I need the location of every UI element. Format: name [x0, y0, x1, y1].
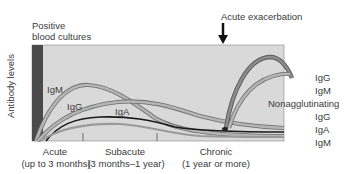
right-label-igm-bottom: IgM — [315, 137, 331, 149]
phase-chronic-range: (1 year or more) — [170, 158, 262, 170]
right-label-nonagglutinating: Nonagglutinating — [268, 98, 339, 110]
down-arrow-icon — [218, 23, 228, 44]
exacerbation-start-marker — [222, 127, 228, 131]
right-label-igm-top: IgM — [315, 85, 331, 97]
inline-label-igg: IgG — [67, 101, 82, 113]
inline-label-iga: IgA — [115, 106, 129, 118]
phase-acute-label: Acute — [20, 146, 90, 158]
phase-subacute-label: Subacute — [85, 146, 165, 158]
y-axis-label: Antibody levels — [5, 54, 16, 118]
phase-subacute-range: (3 months–1 year) — [78, 158, 174, 170]
phase-chronic-label: Chronic — [176, 146, 256, 158]
inline-label-igm: IgM — [47, 84, 63, 96]
right-label-igg-bottom: IgG — [315, 111, 330, 123]
right-label-igg-top: IgG — [315, 72, 330, 84]
right-label-iga-bottom: IgA — [315, 124, 329, 136]
